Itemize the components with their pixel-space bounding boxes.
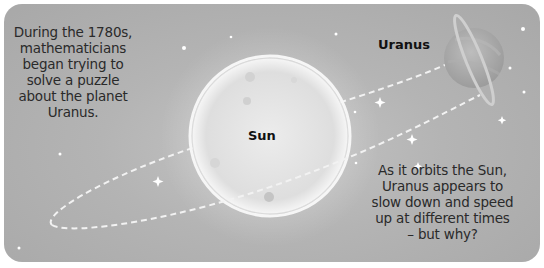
sun-label: Sun	[248, 128, 276, 143]
uranus-label: Uranus	[378, 37, 430, 52]
uranus-planet-illustration	[444, 12, 504, 107]
question-caption: As it orbits the Sun, Uranus appears to …	[370, 162, 515, 242]
intro-caption: During the 1780s, mathematicians began t…	[8, 24, 138, 120]
